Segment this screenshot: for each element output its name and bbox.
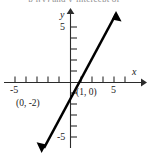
- y-tick-label-negative-5: -5: [57, 132, 65, 142]
- y-axis-arrowhead-icon: [67, 8, 75, 14]
- line-upper-arrowhead-icon: [112, 11, 122, 21]
- x-tick-label-positive-5: 5: [111, 85, 116, 95]
- x-tick-label-negative-5: -5: [10, 85, 18, 95]
- x-axis-arrowhead-icon: [141, 79, 147, 87]
- line-segment: [44, 14, 116, 148]
- coordinate-plane-svg: [0, 0, 148, 155]
- graph-figure: p f(y) and y-intercept of: [0, 0, 148, 155]
- point-label-y-intercept: (0, -2): [16, 99, 40, 109]
- x-axis-label: x: [132, 67, 136, 77]
- y-axis: [67, 8, 77, 148]
- y-tick-label-positive-5: 5: [60, 22, 65, 32]
- y-axis-label: y: [60, 10, 64, 20]
- point-label-x-intercept: (1, 0): [76, 88, 97, 98]
- x-axis: [4, 77, 147, 87]
